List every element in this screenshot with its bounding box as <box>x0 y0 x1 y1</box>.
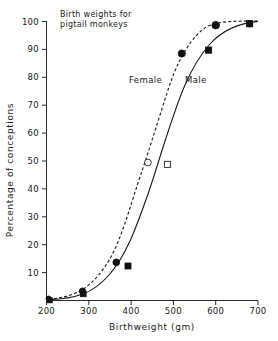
y-tick-label-60: 60 <box>28 128 39 138</box>
female-data-points <box>46 21 253 302</box>
chart-title-line-2: pigtail monkeys <box>60 20 128 29</box>
series-label-female: Female <box>129 75 162 85</box>
x-tick-label-400: 400 <box>123 306 140 316</box>
male-point-580gm <box>206 47 212 53</box>
female-point-600gm <box>212 21 220 29</box>
y-tick-label-70: 70 <box>28 100 39 110</box>
y-tick-label-50: 50 <box>28 156 39 166</box>
male-curve <box>49 21 258 299</box>
male-point-385gm <box>125 263 131 269</box>
female-curve <box>49 21 258 299</box>
x-tick-label-300: 300 <box>80 306 97 316</box>
female-point-440gm <box>145 159 152 166</box>
y-axis-ticks <box>42 22 47 273</box>
male-point-485gm <box>164 161 170 167</box>
x-axis-title: Birthweight (gm) <box>109 322 195 332</box>
chart-title-line-1: Birth weights for <box>60 10 132 19</box>
x-tick-label-700: 700 <box>249 306 266 316</box>
chart-figure: 100 90 80 70 60 50 40 30 20 10 200 300 4… <box>0 0 278 341</box>
x-axis-ticks <box>47 301 259 306</box>
y-tick-label-20: 20 <box>28 240 39 250</box>
y-axis-title: Percentage of conceptions <box>5 103 15 237</box>
y-tick-label-10: 10 <box>28 268 39 278</box>
male-point-210gm <box>47 298 52 303</box>
y-tick-label-100: 100 <box>22 17 39 27</box>
x-tick-label-200: 200 <box>38 306 55 316</box>
sigmoid-line-chart: 100 90 80 70 60 50 40 30 20 10 200 300 4… <box>0 0 278 341</box>
series-label-male: Male <box>185 75 207 85</box>
y-tick-label-30: 30 <box>28 212 39 222</box>
y-tick-label-40: 40 <box>28 184 39 194</box>
y-tick-label-90: 90 <box>28 44 39 54</box>
male-point-680gm <box>247 21 253 27</box>
male-point-287gm <box>81 291 87 297</box>
female-point-365gm <box>113 259 120 266</box>
x-tick-label-600: 600 <box>207 306 224 316</box>
y-tick-label-80: 80 <box>28 72 39 82</box>
x-tick-label-500: 500 <box>165 306 182 316</box>
female-point-520gm <box>178 50 185 57</box>
